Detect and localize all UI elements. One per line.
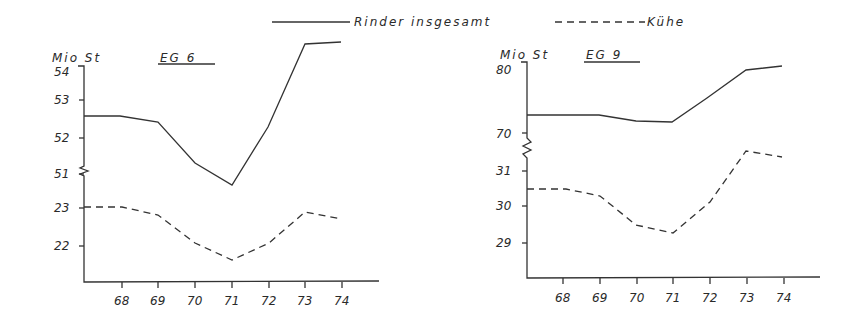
left-ytick: 52 xyxy=(54,131,69,145)
right-xtick: 70 xyxy=(629,291,645,305)
figure: Rinder insgesamt Kühe Mio St EG 6 54 53 … xyxy=(0,0,867,335)
left-xtick: 70 xyxy=(187,294,203,308)
right-xtick: 68 xyxy=(555,291,571,305)
right-xtick: 69 xyxy=(592,291,607,305)
right-xtick: 72 xyxy=(702,291,717,305)
right-xtick: 71 xyxy=(665,291,680,305)
right-ytick: 30 xyxy=(496,199,512,213)
left-ytick: 51 xyxy=(54,167,69,181)
left-title: EG 6 xyxy=(160,51,196,65)
left-ytick: 23 xyxy=(54,201,69,215)
left-xtick: 72 xyxy=(261,294,276,308)
right-ytick: 29 xyxy=(496,236,511,250)
chart-eg6: Mio St EG 6 54 53 52 51 23 22 68 69 70 7… xyxy=(52,42,379,308)
left-ylabel: Mio St xyxy=(52,51,101,65)
legend-dashed-label: Kühe xyxy=(647,15,685,29)
right-series-rinder xyxy=(527,66,782,122)
right-ytick: 70 xyxy=(496,127,512,141)
right-xtick: 74 xyxy=(776,291,791,305)
legend: Rinder insgesamt Kühe xyxy=(272,15,685,29)
right-xtick: 73 xyxy=(739,291,754,305)
left-xtick: 71 xyxy=(224,294,239,308)
right-axes xyxy=(521,62,820,278)
right-series-kuehe xyxy=(527,151,782,233)
left-xtick: 74 xyxy=(334,294,349,308)
left-series-kuehe xyxy=(84,207,342,260)
right-ylabel: Mio St xyxy=(500,48,549,62)
legend-solid-label: Rinder insgesamt xyxy=(354,15,491,29)
left-ytick: 22 xyxy=(54,239,69,253)
left-xtick: 68 xyxy=(114,294,130,308)
left-ytick: 54 xyxy=(54,65,69,79)
right-ytick: 31 xyxy=(496,164,511,178)
left-ytick: 53 xyxy=(54,93,69,107)
left-xtick: 69 xyxy=(150,294,165,308)
left-axes xyxy=(78,66,379,282)
right-title: EG 9 xyxy=(586,48,622,62)
right-ytick: 80 xyxy=(496,63,512,77)
chart-eg9: Mio St EG 9 80 70 31 30 29 68 69 70 71 7… xyxy=(496,48,820,305)
left-xtick: 73 xyxy=(297,294,312,308)
